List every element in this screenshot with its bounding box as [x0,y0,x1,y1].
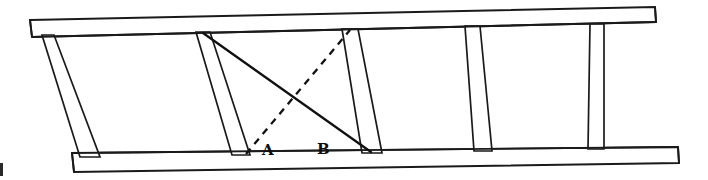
scan-artifact-speck [0,163,3,176]
rung-5 [588,24,604,149]
top-rail-right-cap [655,7,656,22]
ladder-figure: A B [0,0,708,180]
label-point-a: A [261,141,274,159]
ladder-drawing: A B [0,0,708,180]
label-point-b: B [317,140,330,158]
bottom-rail-right-cap [678,147,679,163]
